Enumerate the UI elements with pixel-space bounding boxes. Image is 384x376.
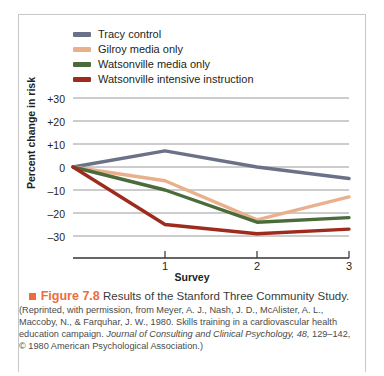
figure-number: Figure 7.8 [41,289,100,303]
chart-svg [19,15,365,287]
figure-caption: Figure 7.8 Results of the Stanford Three… [19,290,359,353]
figure-credit-line1: (Reprinted, with permission, from Meyer,… [19,305,300,315]
figure-credit-journal: Journal of Consulting and Clinical Psych… [106,329,309,339]
chart-plot-area: Percent change in risk +30 +20 +10 0 –10… [19,15,365,287]
figure-title-text: Results of the Stanford Three Community … [103,290,349,302]
figure-credit: (Reprinted, with permission, from Meyer,… [19,304,359,353]
chart-gridlines [73,98,349,236]
square-bullet-icon [29,293,36,300]
figure-page: Tracy control Gilroy media only Watsonvi… [0,0,384,376]
chart-x-axis [73,251,349,258]
page-rule-right [365,14,366,372]
figure-caption-title-line: Figure 7.8 Results of the Stanford Three… [19,290,359,303]
figure-container: Tracy control Gilroy media only Watsonvi… [19,14,365,287]
x-axis-label: Survey [19,271,365,283]
figure-title: Results of the Stanford Three Community … [100,290,350,302]
